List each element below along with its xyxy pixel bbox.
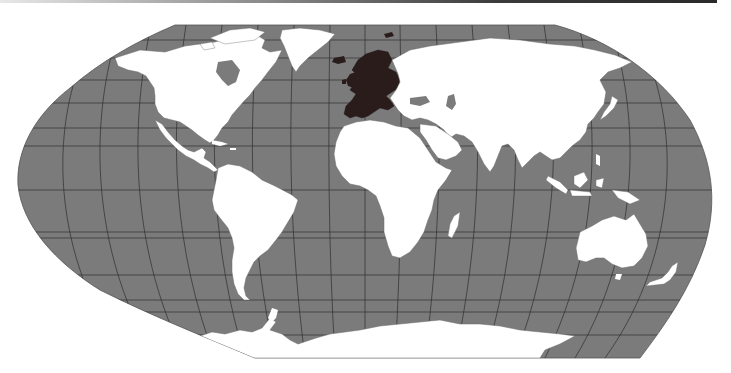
landmass-philippines [596,154,600,166]
world-map [0,0,731,373]
map-svg [0,0,731,373]
